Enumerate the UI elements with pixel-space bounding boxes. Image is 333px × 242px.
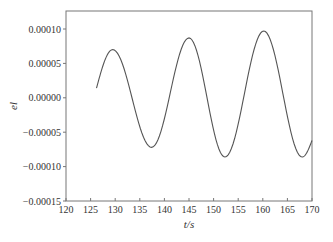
x-tick-label: 130 [108,204,123,215]
y-tick-label: −0.00015 [23,196,61,207]
x-tick-label: 170 [305,204,320,215]
x-axis-label: t/s [184,218,194,230]
x-tick-label: 150 [206,204,221,215]
line-chart: 0.000100.000050.00000−0.00005−0.00010−0.… [0,0,333,242]
y-tick-label: 0.00005 [29,58,62,69]
y-tick-label: 0.00010 [29,24,62,35]
x-tick-label: 125 [83,204,98,215]
x-tick-label: 165 [280,204,295,215]
y-tick-label: 0.00000 [29,92,62,103]
y-tick-label: −0.00005 [23,127,61,138]
x-tick-label: 155 [231,204,246,215]
x-tick-label: 135 [132,204,147,215]
y-axis-label: el [7,102,19,110]
x-tick-label: 145 [182,204,197,215]
y-tick-label: −0.00010 [23,161,61,172]
x-tick-label: 160 [255,204,270,215]
series-line-el [97,31,313,157]
x-tick-label: 120 [59,204,74,215]
x-tick-label: 140 [157,204,172,215]
y-axis-ticks: 0.000100.000050.00000−0.00005−0.00010−0.… [23,24,66,207]
plot-frame [66,11,312,201]
